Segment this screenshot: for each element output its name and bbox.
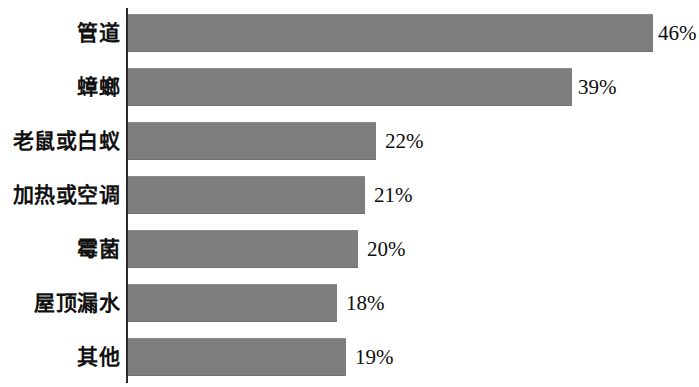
bar-value-6: 19% bbox=[355, 338, 394, 376]
bar-5 bbox=[128, 284, 337, 322]
bar-value-5: 18% bbox=[346, 284, 385, 322]
bar-value-2: 22% bbox=[385, 122, 424, 160]
bar-value-3: 21% bbox=[374, 176, 413, 214]
bar-row: 管道 46% bbox=[0, 14, 699, 52]
bar-row: 其他 19% bbox=[0, 338, 699, 376]
category-label-2: 老鼠或白蚁 bbox=[13, 122, 121, 160]
bar-6 bbox=[128, 338, 346, 376]
bar-row: 霉菌 20% bbox=[0, 230, 699, 268]
bar-row: 蟑螂 39% bbox=[0, 68, 699, 106]
bar-value-4: 20% bbox=[367, 230, 406, 268]
category-label-5: 屋顶漏水 bbox=[34, 284, 120, 322]
category-label-0: 管道 bbox=[77, 14, 120, 52]
category-label-3: 加热或空调 bbox=[13, 176, 121, 214]
bar-row: 屋顶漏水 18% bbox=[0, 284, 699, 322]
category-label-1: 蟑螂 bbox=[77, 68, 120, 106]
category-label-6: 其他 bbox=[77, 338, 120, 376]
bar-row: 老鼠或白蚁 22% bbox=[0, 122, 699, 160]
bar-3 bbox=[128, 176, 365, 214]
bar-2 bbox=[128, 122, 376, 160]
bar-value-0: 46% bbox=[658, 14, 697, 52]
bar-0 bbox=[128, 14, 653, 52]
category-label-4: 霉菌 bbox=[77, 230, 120, 268]
bar-chart: 管道 46% 蟑螂 39% 老鼠或白蚁 22% 加热或空调 21% 霉菌 20%… bbox=[0, 0, 699, 387]
bar-1 bbox=[128, 68, 572, 106]
bar-row: 加热或空调 21% bbox=[0, 176, 699, 214]
bar-value-1: 39% bbox=[578, 68, 617, 106]
bar-4 bbox=[128, 230, 358, 268]
